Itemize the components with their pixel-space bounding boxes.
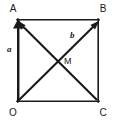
vertex-label-c: C (99, 107, 106, 118)
intersection-point-m: M (64, 56, 72, 66)
vertex-label-o: O (9, 107, 17, 118)
geometry-figure: a b M A B O C (0, 0, 114, 124)
diagonal-ca (17, 21, 97, 100)
vector-a-label: a (7, 44, 12, 54)
vertex-label-b: B (100, 3, 107, 14)
point-m-label: M (64, 56, 72, 66)
vector-a: a (7, 19, 24, 101)
vector-b-label: b (70, 30, 75, 40)
vertex-label-a: A (10, 3, 17, 14)
vector-b: b (19, 21, 99, 100)
figure-canvas: a b M A B O C (0, 0, 114, 124)
diagonal-ca-line (22, 25, 98, 100)
vector-b-line (19, 26, 95, 101)
